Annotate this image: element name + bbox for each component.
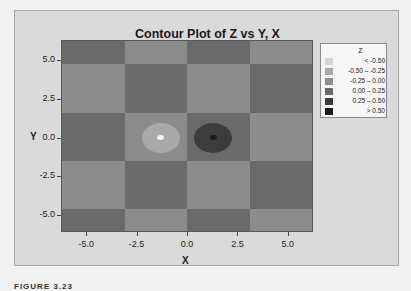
legend-title: Z [321,47,386,54]
chart-title: Contour Plot of Z vs Y, X [15,27,400,41]
x-tick-label: 5.0 [273,239,303,249]
legend-swatch [325,78,333,85]
maximum-peak [210,135,217,140]
contour-cell [125,41,188,65]
contour-cell [250,161,313,210]
x-tick-label: -2.5 [122,239,152,249]
contour-cell [187,209,250,231]
legend-swatch [325,68,333,75]
y-axis-label: Y [30,131,37,142]
legend-swatch [325,88,333,95]
y-tick-mark [57,60,61,61]
legend-range-label: -0.50 – -0.25 [335,67,385,74]
x-tick-mark [187,232,188,236]
contour-cell [250,209,313,231]
contour-cell [62,64,125,113]
legend-range-label: < -0.50 [335,57,385,64]
contour-cell [187,64,250,113]
legend-item: 0.25 – 0.50 [325,97,385,106]
legend-swatch [325,58,333,65]
x-tick-label: 2.5 [222,239,252,249]
contour-cell [62,113,125,162]
contour-cell [250,41,313,65]
x-tick-mark [137,232,138,236]
legend-item: -0.25 – 0.00 [325,77,385,86]
y-tick-label: -5.0 [29,209,55,219]
legend-swatch [325,98,333,105]
x-tick-mark [86,232,87,236]
legend-range-label: > 0.50 [335,107,385,114]
y-tick-mark [57,99,61,100]
contour-cell [125,161,188,210]
contour-plot-area [61,40,313,232]
legend-range-label: 0.00 – 0.25 [335,87,385,94]
y-tick-mark [57,215,61,216]
y-tick-label: 5.0 [29,54,55,64]
legend-swatch [325,108,333,115]
legend: Z < -0.50-0.50 – -0.25-0.25 – 0.000.00 –… [320,43,387,118]
contour-cell [187,161,250,210]
y-tick-label: -2.5 [29,170,55,180]
y-tick-mark [57,176,61,177]
x-axis-label: X [182,255,189,266]
contour-cell [187,41,250,65]
x-tick-mark [237,232,238,236]
contour-cell [62,209,125,231]
contour-cell [250,64,313,113]
contour-cell [62,41,125,65]
legend-item: < -0.50 [325,57,385,66]
legend-range-label: -0.25 – 0.00 [335,77,385,84]
contour-cell [125,64,188,113]
contour-cell [125,209,188,231]
legend-item: > 0.50 [325,107,385,116]
y-tick-mark [57,138,61,139]
legend-item: 0.00 – 0.25 [325,87,385,96]
figure-caption: FIGURE 3.23 [14,282,73,291]
legend-range-label: 0.25 – 0.50 [335,97,385,104]
legend-item: -0.50 – -0.25 [325,67,385,76]
x-tick-label: -5.0 [71,239,101,249]
x-tick-label: 0.0 [172,239,202,249]
contour-cell [250,113,313,162]
contour-cell [62,161,125,210]
y-tick-label: 2.5 [29,93,55,103]
x-tick-mark [288,232,289,236]
